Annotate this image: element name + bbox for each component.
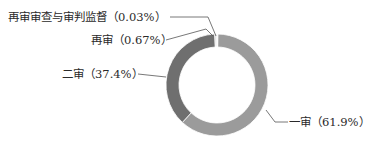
leader-line-review [170, 17, 216, 36]
label-retrial: 再审（0.67%） [91, 33, 172, 47]
donut-slices [166, 34, 268, 136]
label-first-instance: 一审（61.9%） [289, 115, 370, 129]
label-second-instance: 二审（37.4%） [62, 67, 143, 81]
slice-review-supervision [217, 34, 218, 47]
leader-line-first-instance [266, 110, 288, 122]
label-review-supervision: 再审审查与审判监督（0.03%） [8, 10, 166, 24]
slice-second-instance [166, 34, 215, 122]
